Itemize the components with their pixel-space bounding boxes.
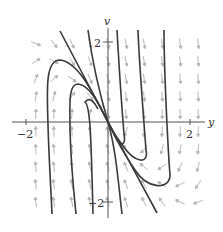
arrow-head-icon <box>34 179 37 182</box>
arrow-head-icon <box>124 180 127 183</box>
arrow-head-icon <box>143 46 146 49</box>
arrow-head-icon <box>196 186 199 189</box>
arrow-head-icon <box>52 197 55 200</box>
arrow-head-icon <box>179 63 182 66</box>
arrow-head-icon <box>52 179 55 182</box>
arrow-head-icon <box>196 151 199 154</box>
arrow-head-icon <box>52 162 55 165</box>
arrow-head-icon <box>125 116 128 119</box>
arrow-head-icon <box>179 134 182 137</box>
arrow-head-icon <box>143 63 146 66</box>
arrow-head-icon <box>158 182 161 185</box>
arrow-head-icon <box>89 109 92 112</box>
arrow-head-icon <box>143 81 146 84</box>
arrow-head-icon <box>160 151 163 154</box>
arrow-head-icon <box>179 116 182 119</box>
arrow-head-icon <box>52 127 55 130</box>
arrow-head-icon <box>70 197 73 200</box>
arrow-head-icon <box>161 99 164 102</box>
arrow-head-icon <box>196 169 199 172</box>
arrow-head-icon <box>197 134 200 137</box>
direction-field <box>31 39 203 207</box>
tick-label-y-neg2: −2 <box>88 197 104 210</box>
arrow-head-icon <box>176 184 179 187</box>
arrow-head-icon <box>179 46 182 49</box>
arrow-head-icon <box>161 116 164 119</box>
arrow-head-icon <box>124 162 127 165</box>
solution-curve-3 <box>108 30 146 160</box>
arrow-head-icon <box>72 45 75 48</box>
arrow-head-icon <box>125 81 128 84</box>
arrow-head-icon <box>34 144 37 147</box>
arrow-head-icon <box>34 127 37 130</box>
arrow-head-icon <box>88 162 91 165</box>
arrow-head-icon <box>52 144 55 147</box>
arrow-head-icon <box>52 109 55 112</box>
arrow-head-icon <box>179 81 182 84</box>
arrow-head-icon <box>197 64 200 67</box>
phase-portrait-svg: v y 2 −2 −2 2 <box>0 0 223 232</box>
arrow-head-icon <box>178 151 181 154</box>
arrow-head-icon <box>197 116 200 119</box>
arrow-head-icon <box>88 180 91 183</box>
arrow-head-icon <box>178 168 181 171</box>
arrow-head-icon <box>161 81 164 84</box>
arrow-head-icon <box>125 63 128 66</box>
arrow-head-icon <box>160 134 163 137</box>
arrow-head-icon <box>53 92 56 95</box>
arrow-head-icon <box>38 43 41 46</box>
arrow-head-icon <box>89 63 92 66</box>
arrow-head-icon <box>197 46 200 49</box>
arrow-head-icon <box>35 92 38 95</box>
arrow-head-icon <box>197 99 200 102</box>
arrow-head-icon <box>197 81 200 84</box>
horizontal-axis-label: y <box>207 116 215 129</box>
arrow-head-icon <box>142 198 145 201</box>
arrow-head-icon <box>194 201 197 204</box>
labels: v y 2 −2 −2 2 <box>17 15 215 210</box>
arrow-head-icon <box>176 200 179 203</box>
phase-portrait: v y 2 −2 −2 2 <box>0 0 223 232</box>
arrow-head-icon <box>34 162 37 165</box>
arrow-head-icon <box>71 109 74 112</box>
arrow-head-icon <box>179 99 182 102</box>
tick-label-y-2: 2 <box>94 37 101 50</box>
tick-label-x-neg2: −2 <box>17 128 33 141</box>
arrow-head-icon <box>161 63 164 66</box>
arrow-head-icon <box>35 74 38 77</box>
solution-curve-7 <box>47 60 108 214</box>
arrow-head-icon <box>125 99 128 102</box>
arrow-head-icon <box>125 46 128 49</box>
arrow-head-icon <box>90 80 93 83</box>
arrow-head-icon <box>37 59 40 62</box>
arrow-head-icon <box>143 99 146 102</box>
arrow-head-icon <box>34 197 37 200</box>
tick-label-x-2: 2 <box>186 128 193 141</box>
arrow-head-icon <box>34 109 37 112</box>
arrow-head-icon <box>124 197 127 200</box>
vertical-axis-label: v <box>104 15 111 28</box>
